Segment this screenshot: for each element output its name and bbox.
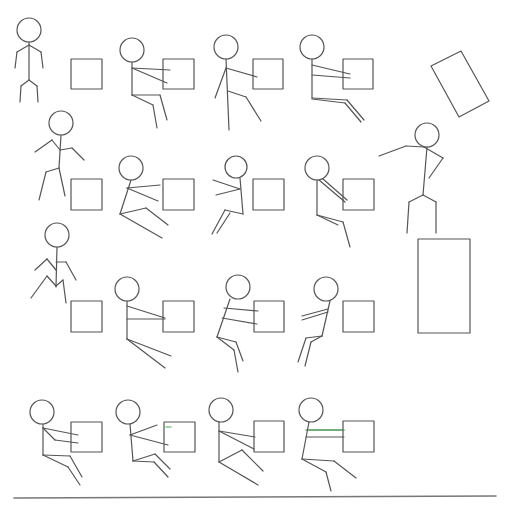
head (30, 400, 54, 424)
head (120, 38, 144, 62)
head (214, 35, 238, 59)
box-r2c1 (71, 179, 102, 210)
limb (127, 188, 158, 201)
limb (226, 59, 229, 130)
limb (225, 210, 243, 214)
limb (155, 454, 170, 469)
ground-baseline (14, 496, 496, 498)
figure-r1c4 (300, 35, 364, 122)
limb (127, 185, 160, 188)
limb (59, 168, 65, 196)
limb (60, 148, 72, 150)
box-r4c4 (343, 421, 374, 452)
limb (429, 158, 443, 178)
limb (66, 262, 76, 280)
limb (326, 472, 331, 491)
box-r2c4 (343, 179, 374, 210)
figure-r2c3 (212, 156, 247, 234)
limb (409, 195, 423, 202)
limb (302, 312, 328, 320)
platform-box (418, 239, 470, 333)
box-r3c2 (163, 301, 194, 332)
limb (132, 68, 170, 70)
limb (130, 435, 168, 445)
head (314, 277, 338, 301)
limb (120, 214, 162, 238)
limb (343, 222, 350, 247)
limb (423, 195, 436, 202)
limb (236, 342, 243, 361)
figure-r3c4 (298, 277, 338, 366)
limb (222, 318, 257, 324)
limb (41, 52, 43, 68)
limb (127, 339, 171, 356)
limb (120, 180, 131, 214)
head (45, 223, 69, 247)
limb (322, 301, 330, 336)
limb (15, 52, 17, 68)
figure-r2c1 (35, 111, 84, 200)
box-r3c3 (254, 301, 284, 332)
box-r1c2 (163, 59, 194, 89)
head (209, 398, 233, 422)
limb (153, 105, 157, 128)
box-r3c1 (71, 301, 102, 332)
figure-r4c3 (209, 398, 263, 485)
limb (407, 202, 409, 233)
limb (43, 455, 70, 456)
limb (302, 422, 309, 459)
box-r1c3 (253, 59, 283, 89)
limb (56, 247, 57, 287)
figure-r3c1 (31, 223, 76, 303)
limb (298, 338, 306, 362)
limb (302, 459, 326, 472)
limb (305, 342, 311, 366)
limb (20, 86, 21, 102)
limb (240, 178, 243, 214)
limb (160, 95, 167, 120)
figure-r3c3 (217, 275, 258, 372)
limb (213, 180, 240, 189)
limb (334, 461, 356, 478)
boxes-layer (71, 51, 489, 452)
limb (133, 454, 155, 461)
limb (312, 65, 350, 74)
limb (43, 455, 68, 467)
box-r2c2 (163, 179, 194, 210)
box-r4c3 (254, 421, 284, 452)
figure-standing (15, 18, 43, 102)
limb (56, 280, 63, 286)
limb (224, 308, 258, 311)
limb (47, 259, 56, 270)
limb (216, 189, 240, 195)
head (225, 156, 247, 178)
figure-r2c2 (119, 156, 168, 238)
limb (70, 456, 82, 477)
limb (217, 213, 230, 233)
figure-r4c4 (299, 398, 356, 491)
limb (35, 259, 47, 270)
limb (246, 97, 261, 121)
limb (302, 309, 328, 316)
limb (345, 103, 361, 122)
head (119, 156, 143, 180)
limb (130, 425, 157, 435)
figure-r4c2 (116, 400, 170, 477)
head (116, 400, 140, 424)
limb (35, 140, 52, 152)
limb (39, 172, 46, 200)
limb (127, 339, 165, 368)
head (415, 123, 439, 147)
limb (72, 148, 84, 160)
limb (37, 86, 38, 102)
head (300, 35, 324, 59)
limb (59, 135, 61, 168)
limb (242, 450, 263, 471)
limb (130, 424, 133, 461)
limb (132, 95, 153, 105)
limb (219, 450, 242, 462)
limb (226, 68, 257, 77)
limb (31, 276, 47, 298)
limb (219, 462, 258, 485)
tilted-box (431, 51, 489, 117)
